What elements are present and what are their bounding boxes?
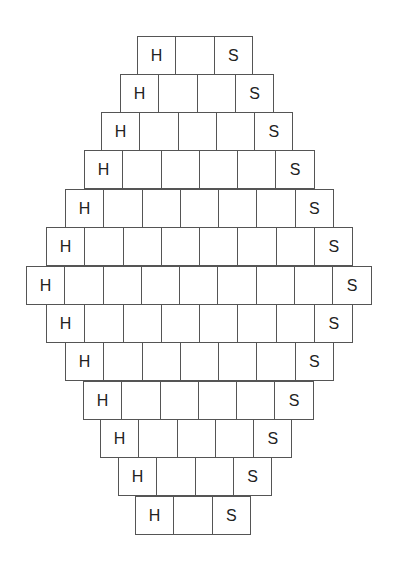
grid-cell-s: S	[235, 74, 274, 113]
grid-row: HS	[65, 342, 333, 380]
grid-cell-h: H	[118, 457, 157, 496]
grid-cell-s: S	[275, 150, 314, 189]
grid-cell	[64, 266, 103, 305]
grid-cell	[122, 150, 161, 189]
grid-cell-h: H	[65, 189, 104, 228]
grid-cell-s: S	[214, 36, 253, 75]
grid-cell-h: H	[46, 227, 85, 266]
grid-cell	[141, 266, 180, 305]
grid-cell	[103, 266, 142, 305]
grid-cell	[173, 496, 212, 535]
grid-cell	[294, 266, 333, 305]
grid-cell	[84, 304, 123, 343]
grid-cell	[142, 342, 181, 381]
grid-cell	[256, 342, 295, 381]
grid-cell	[177, 419, 216, 458]
grid-cell	[256, 189, 295, 228]
grid-cell-h: H	[65, 342, 104, 381]
grid-cell	[218, 342, 257, 381]
grid-cell	[121, 381, 160, 420]
grid-cell-s: S	[274, 381, 313, 420]
grid-cell	[195, 457, 234, 496]
grid-cell	[256, 266, 295, 305]
grid-cell	[237, 150, 276, 189]
grid-cell	[199, 150, 238, 189]
grid-cell	[103, 342, 142, 381]
grid-cell	[123, 227, 162, 266]
grid-cell	[276, 304, 315, 343]
grid-cell	[142, 189, 181, 228]
grid-cell	[215, 419, 254, 458]
grid-cell-s: S	[253, 419, 292, 458]
grid-cell	[237, 304, 276, 343]
grid-row: HS	[84, 150, 314, 188]
grid-cell	[178, 112, 217, 151]
grid-row: HS	[83, 381, 313, 419]
grid-cell	[217, 266, 256, 305]
grid-row: HS	[137, 36, 252, 74]
grid-row: HS	[135, 496, 250, 534]
grid-row: HS	[100, 419, 291, 457]
grid-row: HS	[26, 266, 371, 304]
grid-cell-s: S	[233, 457, 272, 496]
grid-cell	[276, 227, 315, 266]
grid-cell	[175, 36, 214, 75]
grid-cell-h: H	[135, 496, 174, 535]
grid-cell	[161, 150, 200, 189]
grid-cell	[138, 419, 177, 458]
grid-row: HS	[118, 457, 271, 495]
grid-cell	[216, 112, 255, 151]
grid-cell	[123, 304, 162, 343]
grid-cell	[197, 74, 236, 113]
grid-cell-s: S	[295, 342, 334, 381]
grid-cell-h: H	[26, 266, 65, 305]
grid-cell-s: S	[254, 112, 293, 151]
grid-cell	[199, 227, 238, 266]
grid-cell	[180, 342, 219, 381]
grid-row: HS	[101, 112, 292, 150]
grid-cell-h: H	[101, 112, 140, 151]
grid-cell	[103, 189, 142, 228]
grid-cell	[236, 381, 275, 420]
grid-row: HS	[46, 304, 352, 342]
grid-cell	[179, 266, 218, 305]
grid-cell-s: S	[332, 266, 371, 305]
grid-cell-h: H	[137, 36, 176, 75]
grid-cell	[161, 227, 200, 266]
grid-cell-h: H	[84, 150, 123, 189]
grid-cell-h: H	[46, 304, 85, 343]
grid-cell	[84, 227, 123, 266]
grid-cell	[199, 304, 238, 343]
grid-row: HS	[120, 74, 273, 112]
grid-cell	[158, 74, 197, 113]
grid-cell-s: S	[314, 227, 353, 266]
grid-cell-h: H	[83, 381, 122, 420]
grid-cell	[198, 381, 237, 420]
grid-cell	[156, 457, 195, 496]
grid-cell	[161, 304, 200, 343]
grid-cell-s: S	[212, 496, 251, 535]
grid-row: HS	[65, 189, 333, 227]
grid-cell-s: S	[314, 304, 353, 343]
grid-row: HS	[46, 227, 352, 265]
grid-cell	[160, 381, 199, 420]
diamond-grid-diagram: HSHSHSHSHSHSHSHSHSHSHSHSHS	[0, 0, 394, 565]
grid-cell-s: S	[295, 189, 334, 228]
grid-cell-h: H	[100, 419, 139, 458]
grid-cell	[237, 227, 276, 266]
grid-cell	[218, 189, 257, 228]
grid-cell	[180, 189, 219, 228]
grid-cell-h: H	[120, 74, 159, 113]
grid-cell	[139, 112, 178, 151]
